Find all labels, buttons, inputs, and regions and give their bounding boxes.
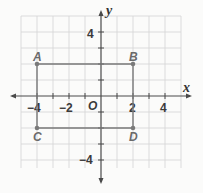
x-axis-label: x (182, 80, 190, 95)
y-axis-down-arrow-icon (99, 178, 104, 184)
x-tick-label: 4 (160, 101, 167, 115)
x-axis-left-arrow-icon (10, 94, 16, 99)
y-tick-label: 4 (87, 27, 94, 41)
y-tick-label: −4 (79, 153, 93, 167)
y-axis-up-arrow-icon (99, 10, 104, 16)
y-axis-label: y (104, 3, 113, 18)
coordinate-plane: y x O −4 −2 2 4 4 −4 A B C D (0, 0, 203, 193)
origin-label: O (88, 99, 98, 113)
point-d-label: D (129, 130, 138, 144)
point-c-label: C (33, 130, 42, 144)
point-b-label: B (129, 50, 138, 64)
x-tick-label: −4 (27, 101, 41, 115)
x-tick-label: −2 (59, 101, 73, 115)
point-a-label: A (32, 50, 42, 64)
